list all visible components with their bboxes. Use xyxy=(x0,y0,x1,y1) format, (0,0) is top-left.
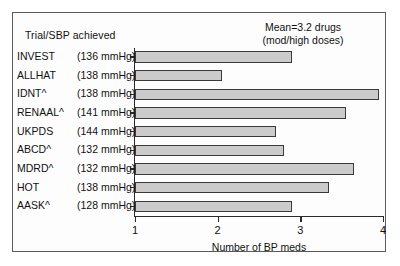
trial-name-label: ABCD^ xyxy=(17,143,77,155)
bar-row: MDRD^(132 mmHg) xyxy=(135,160,383,179)
bar xyxy=(135,126,276,137)
trial-sbp-label: (144 mmHg) xyxy=(77,125,129,137)
bar-row: IDNT^(138 mmHg) xyxy=(135,85,383,104)
trial-sbp-label: (138 mmHg) xyxy=(77,69,129,81)
bar-row: UKPDS(144 mmHg) xyxy=(135,123,383,142)
x-axis-tick-label: 3 xyxy=(285,224,315,236)
bar xyxy=(135,201,292,212)
trial-name-label: HOT xyxy=(17,181,77,193)
trial-name-label: INVEST xyxy=(17,50,77,62)
bar xyxy=(135,89,379,100)
x-axis-tick xyxy=(135,217,136,222)
bar-row: RENAAL^(141 mmHg) xyxy=(135,104,383,123)
bar-row: ABCD^(132 mmHg) xyxy=(135,141,383,160)
bar xyxy=(135,70,222,81)
bar-chart-figure: Trial/SBP achieved Mean=3.2 drugs (mod/h… xyxy=(0,0,400,266)
trial-sbp-label: (132 mmHg) xyxy=(77,143,129,155)
x-axis-line xyxy=(134,216,384,217)
bar-row: INVEST(136 mmHg) xyxy=(135,48,383,67)
trial-name-label: AASK^ xyxy=(17,199,77,211)
x-axis-tick xyxy=(383,217,384,222)
mean-annotation: Mean=3.2 drugs (mod/high doses) xyxy=(238,21,368,46)
x-axis-tick-label: 1 xyxy=(120,224,150,236)
bar xyxy=(135,163,354,174)
plot-area: INVEST(136 mmHg)ALLHAT(138 mmHg)IDNT^(13… xyxy=(135,48,383,216)
bar-row: ALLHAT(138 mmHg) xyxy=(135,67,383,86)
trial-sbp-label: (138 mmHg) xyxy=(77,181,129,193)
trial-sbp-label: (136 mmHg) xyxy=(77,50,129,62)
trial-sbp-label: (138 mmHg) xyxy=(77,87,129,99)
trial-name-label: MDRD^ xyxy=(17,162,77,174)
bar xyxy=(135,51,292,62)
trial-sbp-label: (132 mmHg) xyxy=(77,162,129,174)
x-axis-tick-label: 2 xyxy=(203,224,233,236)
bar xyxy=(135,182,329,193)
trial-name-label: ALLHAT xyxy=(17,69,77,81)
bar xyxy=(135,107,346,118)
bar-row: HOT(138 mmHg) xyxy=(135,179,383,198)
mean-annotation-line1: Mean=3.2 drugs xyxy=(238,21,368,34)
x-axis-title: Number of BP meds xyxy=(135,241,383,253)
mean-annotation-line2: (mod/high doses) xyxy=(238,34,368,47)
x-axis-tick xyxy=(300,217,301,222)
trial-sbp-label: (141 mmHg) xyxy=(77,106,129,118)
x-axis-tick xyxy=(218,217,219,222)
trial-name-label: IDNT^ xyxy=(17,87,77,99)
trial-name-label: UKPDS xyxy=(17,125,77,137)
trial-name-label: RENAAL^ xyxy=(17,106,77,118)
x-axis-tick-label: 4 xyxy=(368,224,398,236)
bar xyxy=(135,145,284,156)
bar-row: AASK^(128 mmHg) xyxy=(135,197,383,216)
trial-sbp-label: (128 mmHg) xyxy=(77,199,129,211)
trial-column-header: Trial/SBP achieved xyxy=(25,29,116,41)
